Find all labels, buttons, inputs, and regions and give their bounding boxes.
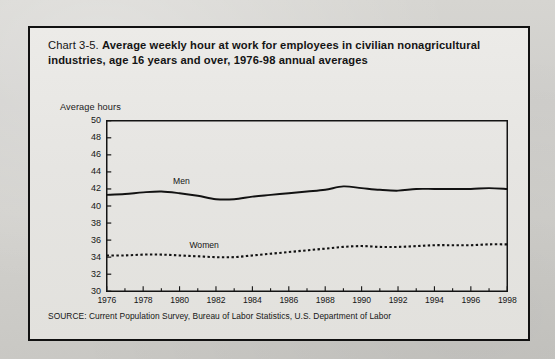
- x-tick-label: 1998: [490, 295, 524, 305]
- x-tick-label: 1980: [163, 295, 197, 305]
- x-tick-label: 1992: [381, 295, 415, 305]
- y-tick-label: 40: [81, 201, 101, 211]
- chart-number: Chart 3-5.: [48, 39, 99, 51]
- y-tick-label: 46: [81, 149, 101, 159]
- source-note: SOURCE: Current Population Survey, Burea…: [48, 311, 391, 321]
- y-tick-label: 36: [81, 235, 101, 245]
- series-label-men: Men: [173, 176, 190, 186]
- x-tick-label: 1982: [199, 295, 233, 305]
- chart-figure-box: Chart 3-5. Average weekly hour at work f…: [28, 26, 530, 341]
- y-axis-caption: Average hours: [60, 102, 121, 112]
- y-tick-label: 44: [81, 166, 101, 176]
- y-tick-label: 50: [81, 115, 101, 125]
- series-line-men: [107, 186, 508, 199]
- series-label-women: Women: [189, 240, 218, 250]
- x-tick-label: 1988: [308, 295, 342, 305]
- chart-title-text: Average weekly hour at work for employee…: [48, 39, 480, 66]
- y-tick-label: 48: [81, 132, 101, 142]
- x-tick-label: 1986: [272, 295, 306, 305]
- x-tick-label: 1990: [345, 295, 379, 305]
- x-tick-label: 1996: [454, 295, 488, 305]
- chart-title: Chart 3-5. Average weekly hour at work f…: [48, 38, 500, 67]
- line-chart-svg: [106, 120, 508, 292]
- y-tick-label: 32: [81, 269, 101, 279]
- y-tick-label: 42: [81, 183, 101, 193]
- plot-frame: [107, 121, 508, 292]
- x-tick-label: 1984: [235, 295, 269, 305]
- plot-area: 3032343638404244464850 19761978198019821…: [106, 120, 508, 292]
- x-tick-label: 1978: [126, 295, 160, 305]
- x-tick-label: 1994: [417, 295, 451, 305]
- y-tick-label: 34: [81, 252, 101, 262]
- x-tick-label: 1976: [90, 295, 124, 305]
- y-tick-label: 38: [81, 218, 101, 228]
- series-line-women: [107, 244, 508, 257]
